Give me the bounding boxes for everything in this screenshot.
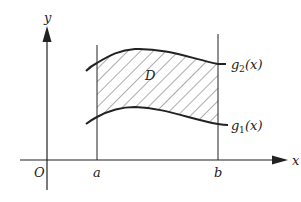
bound-a-label: a (93, 165, 101, 180)
g2-label-arg: (x) (245, 57, 262, 72)
hatched-region-d (90, 40, 225, 130)
g2-label: g 2 (x) (231, 57, 262, 74)
region-d-label: D (144, 68, 156, 83)
g1-label: g 1 (x) (231, 118, 262, 135)
g1-label-arg: (x) (245, 118, 262, 133)
y-axis-label: y (43, 10, 52, 25)
y-axis-arrow-icon (43, 26, 52, 42)
region-diagram: y x O a b D g 2 (x) g 1 (x) (0, 0, 301, 202)
bound-b-label: b (214, 165, 222, 180)
x-axis-label: x (292, 153, 300, 168)
origin-label: O (34, 165, 45, 180)
x-axis-arrow-icon (272, 156, 288, 165)
g1-label-sub: 1 (239, 125, 245, 135)
g2-label-sub: 2 (239, 64, 245, 74)
